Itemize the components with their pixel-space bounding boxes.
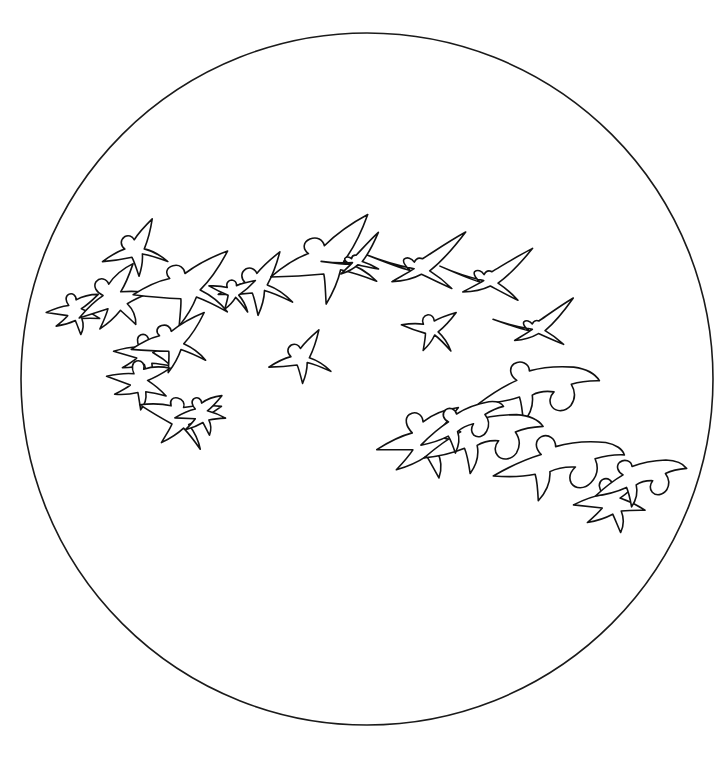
illustration-svg — [0, 0, 728, 763]
bird-illustration-canvas — [0, 0, 728, 763]
